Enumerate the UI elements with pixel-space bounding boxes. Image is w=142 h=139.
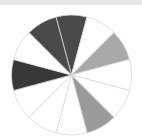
pie-chart-svg: [0, 0, 142, 139]
pie-chart: [0, 0, 142, 139]
